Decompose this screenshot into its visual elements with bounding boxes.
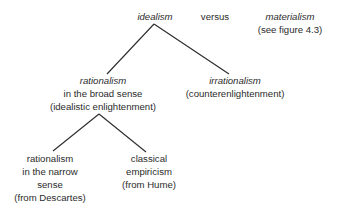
rationalism-broad-line2: in the broad sense <box>50 87 156 100</box>
empiricism-line1: classical <box>122 152 176 165</box>
node-materialism: materialism (see figure 4.3) <box>258 10 323 36</box>
node-rationalism-narrow: rationalism in the narrow sense (from De… <box>14 152 85 204</box>
node-rationalism-broad: rationalism in the broad sense (idealist… <box>50 74 156 113</box>
rationalism-narrow-line1: rationalism <box>14 152 85 165</box>
edge-idealism-irrationalism <box>154 24 229 74</box>
materialism-note: (see figure 4.3) <box>258 23 323 36</box>
rationalism-broad-title: rationalism <box>50 74 156 87</box>
materialism-label: materialism <box>258 10 323 23</box>
irrationalism-line2: (counterenlightenment) <box>186 87 285 100</box>
irrationalism-title: irrationalism <box>186 74 285 87</box>
rationalism-narrow-line2: in the narrow <box>14 165 85 178</box>
empiricism-line2: empiricism <box>122 165 176 178</box>
empiricism-line3: (from Hume) <box>122 178 176 191</box>
node-idealism: idealism <box>137 10 172 23</box>
edge-idealism-rationalism <box>107 24 154 74</box>
idealism-label: idealism <box>137 10 172 23</box>
edge-rationalism-empiricism <box>99 114 146 152</box>
edge-rationalism-narrow <box>53 114 99 151</box>
node-classical-empiricism: classical empiricism (from Hume) <box>122 152 176 191</box>
node-irrationalism: irrationalism (counterenlightenment) <box>186 74 285 100</box>
rationalism-broad-line3: (idealistic enlightenment) <box>50 100 156 113</box>
rationalism-narrow-line4: (from Descartes) <box>14 191 85 204</box>
node-versus: versus <box>201 10 229 23</box>
versus-label: versus <box>201 10 229 23</box>
rationalism-narrow-line3: sense <box>14 178 85 191</box>
